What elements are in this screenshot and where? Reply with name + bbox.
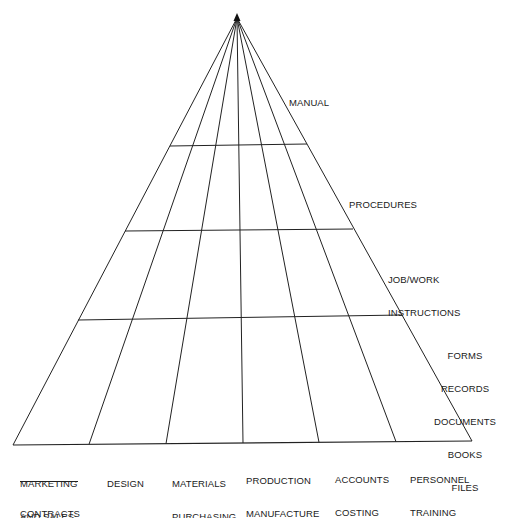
department-label-materials: MATERIALS PURCHASING STORES DESPATCH DEL… bbox=[172, 456, 236, 518]
department-label-personnel: PERSONNEL TRAINING bbox=[410, 452, 470, 518]
apex-marker bbox=[234, 13, 241, 21]
tier-divider-line bbox=[125, 229, 353, 231]
department-label-production: PRODUCTION MANUFACTURE bbox=[246, 453, 319, 518]
tier-label-procedures: PROCEDURES bbox=[349, 177, 417, 221]
department-radial-lines bbox=[13, 18, 472, 445]
pyramid-left-edge bbox=[13, 18, 237, 445]
tier-divider-line bbox=[78, 315, 402, 320]
department-label-design: DESIGN bbox=[107, 456, 144, 500]
department-label-accounts: ACCOUNTS COSTING bbox=[335, 452, 389, 518]
tier-label-job-work-instructions: JOB/WORK INSTRUCTIONS bbox=[388, 252, 460, 329]
department-label-contracts: CONTRACTS bbox=[20, 486, 80, 518]
marketing-contracts-divider bbox=[20, 481, 78, 482]
tier-label-manual: MANUAL bbox=[289, 75, 329, 119]
